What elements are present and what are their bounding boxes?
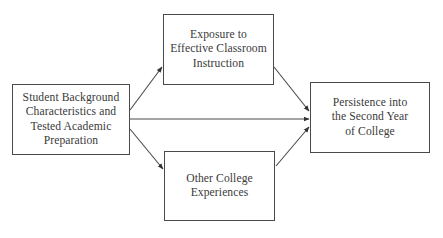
- node-label: Student Background Characteristics and T…: [23, 91, 120, 149]
- node-persistence-second-year: Persistence into the Second Year of Coll…: [310, 82, 430, 153]
- arrow-other-to-persistence: [276, 127, 309, 166]
- node-student-background: Student Background Characteristics and T…: [12, 84, 130, 155]
- node-exposure-classroom-instruction: Exposure to Effective Classroom Instruct…: [163, 14, 274, 85]
- node-label: Other College Experiences: [186, 172, 253, 201]
- node-label: Persistence into the Second Year of Coll…: [332, 96, 409, 140]
- arrow-student-to-exposure: [130, 67, 162, 110]
- node-label: Exposure to Effective Classroom Instruct…: [170, 28, 267, 72]
- arrow-student-to-other: [130, 129, 163, 169]
- arrow-exposure-to-persistence: [274, 67, 309, 111]
- node-other-college-experiences: Other College Experiences: [164, 151, 275, 221]
